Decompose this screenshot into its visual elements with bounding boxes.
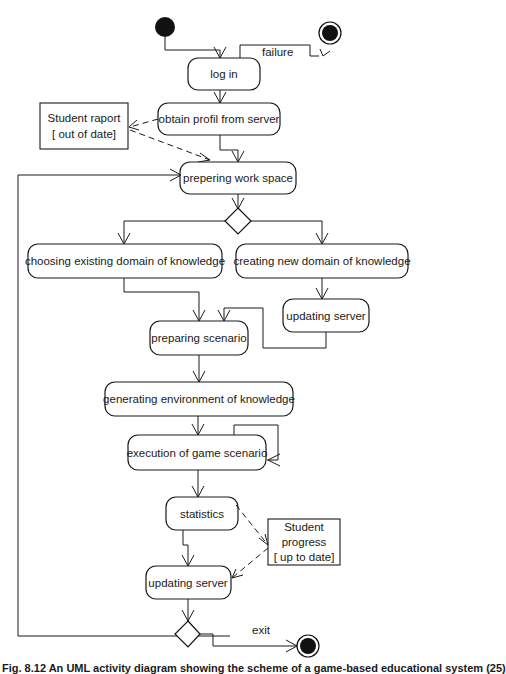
svg-text:updating server: updating server: [148, 577, 227, 589]
svg-text:prepering work space: prepering work space: [183, 172, 293, 184]
action-obtain-profil: obtain profil from server: [158, 103, 280, 135]
action-preparing-scenario: preparing scenario: [150, 321, 248, 355]
svg-text:statistics: statistics: [180, 508, 224, 520]
svg-text:log in: log in: [210, 68, 238, 80]
svg-text:creating new domain of knowled: creating new domain of knowledge: [233, 255, 410, 267]
object-student-progress: Student progress [ up to date]: [268, 519, 340, 565]
action-creating-new-domain: creating new domain of knowledge: [233, 244, 410, 278]
action-updating-server-1: updating server: [283, 299, 369, 332]
svg-text:execution of game scenario: execution of game scenario: [127, 447, 268, 459]
decision-node-1: [225, 208, 251, 234]
svg-text:[ out of date]: [ out of date]: [52, 128, 116, 140]
svg-text:choosing existing domain of kn: choosing existing domain of knowledge: [25, 255, 225, 267]
final-node-exit: [297, 635, 319, 657]
svg-text:preparing scenario: preparing scenario: [151, 332, 246, 344]
svg-text:Student raport: Student raport: [48, 112, 122, 124]
svg-text:Student: Student: [284, 521, 324, 533]
action-choosing-existing-domain: choosing existing domain of knowledge: [25, 244, 225, 278]
object-student-raport: Student raport [ out of date]: [40, 103, 128, 149]
action-prepering-work-space: prepering work space: [180, 162, 296, 194]
svg-text:generating environment of know: generating environment of knowledge: [103, 393, 295, 405]
action-generating-environment: generating environment of knowledge: [103, 382, 295, 416]
final-node-failure: [319, 22, 341, 44]
initial-node: [155, 17, 175, 37]
decision-node-2: [175, 621, 200, 647]
guard-failure: failure: [262, 46, 293, 58]
svg-text:obtain profil from server: obtain profil from server: [159, 113, 280, 125]
svg-text:[ up to date]: [ up to date]: [274, 551, 335, 563]
svg-text:updating server: updating server: [286, 310, 365, 322]
action-execution-of-game-scenario: execution of game scenario: [127, 435, 268, 470]
action-updating-server-2: updating server: [146, 566, 231, 599]
svg-text:progress: progress: [282, 536, 327, 548]
action-log-in: log in: [188, 58, 260, 90]
action-statistics: statistics: [166, 497, 238, 530]
guard-exit: exit: [252, 624, 271, 636]
figure-caption: Fig. 8.12 An UML activity diagram showin…: [2, 662, 506, 674]
